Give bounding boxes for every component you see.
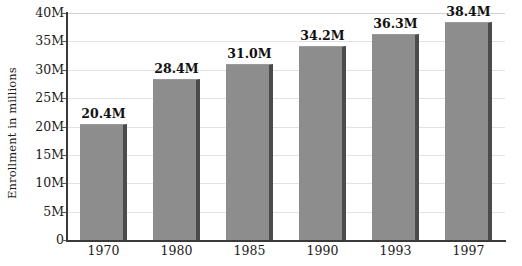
bar bbox=[372, 34, 419, 240]
bar-value-label: 31.0M bbox=[205, 48, 295, 61]
gridline bbox=[67, 183, 505, 184]
gridline bbox=[67, 127, 505, 128]
gridline bbox=[67, 212, 505, 213]
y-axis-tick-label: 15M bbox=[24, 149, 64, 162]
y-axis-tick-label: 20M bbox=[24, 120, 64, 133]
x-axis-line bbox=[66, 240, 506, 242]
y-axis-tick-labels: 05M10M15M20M25M30M35M40M bbox=[24, 0, 64, 266]
bar-value-label: 28.4M bbox=[132, 63, 222, 76]
bar bbox=[299, 46, 346, 240]
bar-value-label: 36.3M bbox=[351, 18, 441, 31]
plot-area bbox=[67, 13, 505, 240]
y-axis-line bbox=[66, 12, 68, 241]
y-axis-tick-label: 25M bbox=[24, 92, 64, 105]
y-axis-title: Enrollment in millions bbox=[0, 0, 24, 266]
bar bbox=[153, 79, 200, 240]
y-axis-tick-label: 5M bbox=[24, 205, 64, 218]
bar-value-label: 20.4M bbox=[59, 108, 149, 121]
y-axis-tick-label: 35M bbox=[24, 35, 64, 48]
bar bbox=[445, 22, 492, 240]
y-axis-tick-label: 40M bbox=[24, 7, 64, 20]
bar-chart: Enrollment in millions 05M10M15M20M25M30… bbox=[0, 0, 522, 266]
bar bbox=[80, 124, 127, 240]
gridline bbox=[67, 155, 505, 156]
gridline bbox=[67, 98, 505, 99]
bar-value-label: 38.4M bbox=[424, 6, 514, 19]
bar-value-label: 34.2M bbox=[278, 30, 368, 43]
y-axis-tick-label: 30M bbox=[24, 64, 64, 77]
y-axis-tick-label: 10M bbox=[24, 177, 64, 190]
bar bbox=[226, 64, 273, 240]
x-axis-tick-label: 1997 bbox=[424, 245, 514, 258]
